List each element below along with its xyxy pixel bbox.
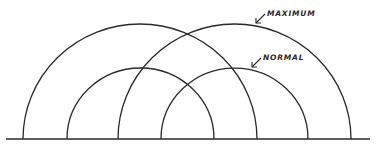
normal-arrow-icon (252, 58, 261, 67)
diagram-svg: MAXIMUM NORMAL (0, 0, 376, 147)
normal-right-arc (161, 68, 308, 139)
normal-label: NORMAL (263, 53, 304, 62)
diagram-canvas: MAXIMUM NORMAL (0, 0, 376, 147)
maximum-arrow-icon (256, 14, 265, 23)
maximum-label: MAXIMUM (267, 9, 315, 18)
normal-left-arc (67, 68, 214, 139)
maximum-right-arc (118, 24, 351, 139)
maximum-left-arc (23, 24, 257, 139)
